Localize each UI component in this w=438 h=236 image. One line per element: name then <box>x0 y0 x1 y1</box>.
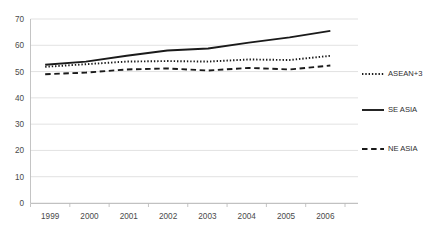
y-tick-label: 70 <box>15 15 25 24</box>
y-tick-label: 60 <box>15 41 25 50</box>
x-tick-label: 2000 <box>80 212 99 221</box>
legend-label-ne-asia: NE ASIA <box>388 144 418 153</box>
x-tick-label: 2001 <box>120 212 139 221</box>
y-tick-label: 10 <box>15 173 25 182</box>
x-tick-label: 2002 <box>159 212 178 221</box>
legend-label-se-asia: SE ASIA <box>388 105 418 114</box>
x-tick-label: 1999 <box>41 212 60 221</box>
x-tick-label: 2004 <box>238 212 257 221</box>
y-tick-label: 0 <box>19 199 24 208</box>
y-tick-label: 30 <box>15 120 25 129</box>
line-chart: 010203040506070 199920002001200220032004… <box>0 0 438 236</box>
y-tick-label: 40 <box>15 94 25 103</box>
x-tick-label: 2006 <box>316 212 335 221</box>
legend-label-asean-3: ASEAN+3 <box>388 69 422 78</box>
chart-background <box>0 0 438 236</box>
x-tick-label: 2003 <box>198 212 217 221</box>
chart-canvas: 010203040506070 199920002001200220032004… <box>0 0 438 236</box>
y-tick-label: 20 <box>15 146 25 155</box>
x-tick-label: 2005 <box>277 212 296 221</box>
y-tick-label: 50 <box>15 68 25 77</box>
